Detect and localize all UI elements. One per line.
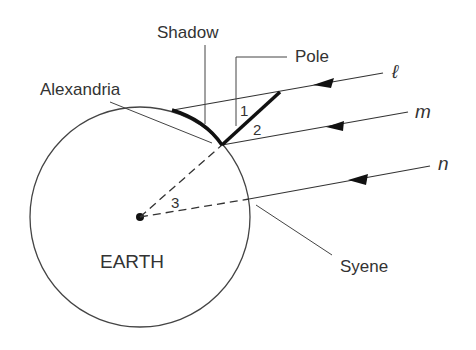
radius-alexandria <box>140 145 222 217</box>
ray-n <box>249 166 430 199</box>
label-pole: Pole <box>295 47 329 66</box>
angle-3: 3 <box>171 194 179 211</box>
angle-1: 1 <box>240 102 248 119</box>
label-syene: Syene <box>340 257 388 276</box>
shadow-arc <box>172 110 222 145</box>
syene-leader <box>256 205 332 255</box>
angle-2: 2 <box>253 121 261 138</box>
ray-l-label: ℓ <box>391 61 399 82</box>
ray-m <box>222 112 408 145</box>
ray-n-label: n <box>438 153 449 174</box>
arrow-l <box>313 78 334 88</box>
label-shadow: Shadow <box>157 23 219 42</box>
arrow-n <box>348 174 368 185</box>
label-alexandria: Alexandria <box>40 80 121 99</box>
eratosthenes-diagram: Shadow Pole Alexandria EARTH Syene ℓ m n… <box>0 0 476 350</box>
ray-m-label: m <box>415 101 431 122</box>
radius-syene <box>140 199 249 217</box>
label-earth: EARTH <box>100 251 164 272</box>
